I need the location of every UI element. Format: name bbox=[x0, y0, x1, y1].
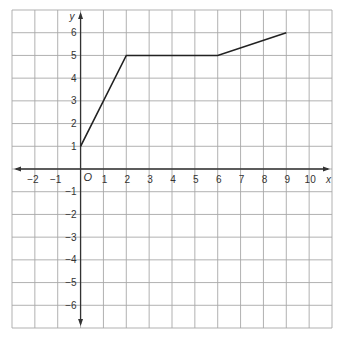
y-tick-label: −2 bbox=[65, 209, 77, 220]
x-tick-label: 1 bbox=[102, 174, 108, 185]
x-axis-arrow-right-icon bbox=[323, 167, 330, 172]
x-tick-label: 9 bbox=[285, 174, 291, 185]
y-axis-label: y bbox=[69, 11, 76, 22]
x-tick-label: −2 bbox=[27, 174, 39, 185]
x-tick-labels: −2−112345678910 bbox=[27, 174, 316, 185]
y-tick-label: 5 bbox=[71, 50, 77, 61]
x-tick-label: 7 bbox=[239, 174, 245, 185]
y-tick-label: −5 bbox=[65, 277, 77, 288]
y-tick-label: −6 bbox=[65, 300, 77, 311]
coordinate-plane-chart: −2−112345678910 654321−1−2−3−4−5−6 x y O bbox=[0, 0, 341, 342]
x-tick-label: 5 bbox=[193, 174, 199, 185]
x-tick-label: 10 bbox=[305, 174, 317, 185]
y-tick-label: −1 bbox=[65, 186, 77, 197]
y-tick-label: 4 bbox=[71, 73, 77, 84]
graph-line bbox=[81, 33, 287, 147]
y-axis-arrow-down-icon bbox=[78, 319, 83, 326]
x-tick-label: 8 bbox=[262, 174, 268, 185]
y-axis-arrow-up-icon bbox=[78, 12, 83, 19]
y-tick-label: −3 bbox=[65, 232, 77, 243]
y-tick-label: 6 bbox=[71, 27, 77, 38]
x-tick-label: 6 bbox=[216, 174, 222, 185]
x-tick-label: −1 bbox=[50, 174, 62, 185]
x-axis-arrow-left-icon bbox=[14, 167, 21, 172]
x-tick-label: 2 bbox=[125, 174, 131, 185]
x-tick-label: 3 bbox=[147, 174, 153, 185]
x-axis-label: x bbox=[325, 174, 332, 185]
y-tick-label: −4 bbox=[65, 254, 77, 265]
x-tick-label: 4 bbox=[170, 174, 176, 185]
origin-label: O bbox=[84, 171, 93, 183]
y-tick-label: 1 bbox=[71, 141, 77, 152]
y-tick-label: 3 bbox=[71, 95, 77, 106]
y-tick-label: 2 bbox=[71, 118, 77, 129]
